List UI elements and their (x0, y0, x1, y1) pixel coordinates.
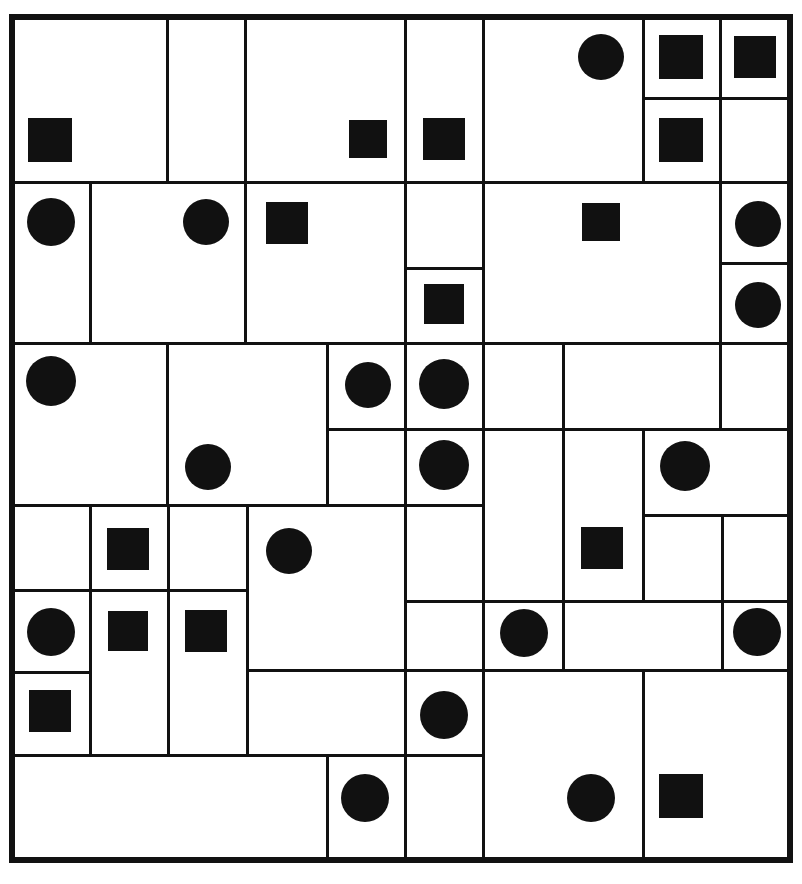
square-marker-icon[interactable] (581, 527, 623, 569)
circle-marker-icon[interactable] (420, 691, 468, 739)
region-cell[interactable] (247, 670, 405, 755)
square-marker-icon[interactable] (349, 120, 387, 158)
region-cell[interactable] (12, 505, 90, 590)
square-marker-icon[interactable] (29, 690, 71, 732)
square-marker-icon[interactable] (185, 610, 227, 652)
circle-marker-icon[interactable] (419, 359, 469, 409)
region-cell[interactable] (643, 515, 722, 601)
circle-marker-icon[interactable] (567, 774, 615, 822)
region-cell[interactable] (247, 505, 405, 670)
square-marker-icon[interactable] (266, 202, 308, 244)
region-cell[interactable] (720, 343, 790, 429)
square-marker-icon[interactable] (659, 774, 703, 818)
square-marker-icon[interactable] (28, 118, 72, 162)
region-cell[interactable] (563, 343, 720, 429)
square-marker-icon[interactable] (734, 36, 776, 78)
region-cell[interactable] (720, 98, 790, 182)
square-marker-icon[interactable] (582, 203, 620, 241)
square-marker-icon[interactable] (659, 35, 703, 79)
region-cell[interactable] (563, 601, 722, 670)
region-cell[interactable] (405, 601, 483, 670)
region-cell[interactable] (168, 505, 247, 590)
region-cell[interactable] (563, 429, 643, 601)
region-cell[interactable] (643, 670, 790, 860)
partition-board[interactable] (0, 0, 802, 884)
circle-marker-icon[interactable] (27, 608, 75, 656)
circle-marker-icon[interactable] (266, 528, 312, 574)
circle-marker-icon[interactable] (735, 201, 781, 247)
circle-marker-icon[interactable] (733, 608, 781, 656)
circle-marker-icon[interactable] (419, 440, 469, 490)
square-marker-icon[interactable] (108, 611, 148, 651)
circle-marker-icon[interactable] (26, 356, 76, 406)
region-cell[interactable] (405, 182, 483, 268)
region-cell[interactable] (405, 755, 483, 860)
region-cell[interactable] (483, 17, 643, 182)
circle-marker-icon[interactable] (183, 199, 229, 245)
square-marker-icon[interactable] (424, 284, 464, 324)
circle-marker-icon[interactable] (27, 198, 75, 246)
region-cell[interactable] (483, 670, 643, 860)
region-cell[interactable] (483, 429, 563, 601)
puzzle-canvas (0, 0, 802, 884)
region-cell[interactable] (12, 755, 327, 860)
circle-marker-icon[interactable] (345, 362, 391, 408)
circle-marker-icon[interactable] (578, 34, 624, 80)
region-cell[interactable] (722, 515, 790, 601)
square-marker-icon[interactable] (423, 118, 465, 160)
circle-marker-icon[interactable] (500, 609, 548, 657)
circle-marker-icon[interactable] (660, 441, 710, 491)
circle-marker-icon[interactable] (735, 282, 781, 328)
region-cell[interactable] (483, 343, 563, 429)
circle-marker-icon[interactable] (185, 444, 231, 490)
circle-marker-icon[interactable] (341, 774, 389, 822)
region-cell[interactable] (167, 17, 245, 182)
square-marker-icon[interactable] (107, 528, 149, 570)
square-marker-icon[interactable] (659, 118, 703, 162)
